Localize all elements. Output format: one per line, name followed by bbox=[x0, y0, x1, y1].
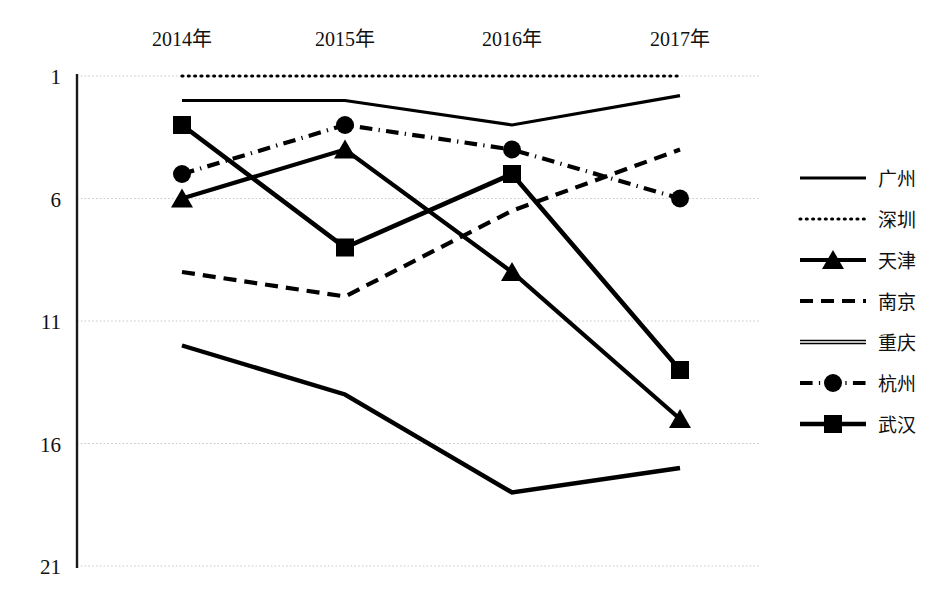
series-line bbox=[182, 96, 680, 125]
series-南京 bbox=[182, 150, 680, 297]
x-tick-label: 2015年 bbox=[315, 28, 375, 50]
legend-label: 重庆 bbox=[878, 333, 916, 354]
legend-item-南京[interactable]: 南京 bbox=[800, 292, 916, 313]
data-point-triangle-marker bbox=[334, 140, 356, 159]
y-tick-label: 6 bbox=[51, 188, 62, 212]
legend-swatch-circle-marker bbox=[824, 374, 842, 392]
series-line bbox=[182, 125, 680, 199]
data-point-square-marker bbox=[503, 165, 521, 183]
ranking-line-chart: 16111621 2014年2015年2016年2017年 广州深圳天津南京重庆… bbox=[0, 0, 935, 616]
legend-label: 南京 bbox=[878, 292, 916, 313]
x-tick-label: 2014年 bbox=[152, 28, 212, 50]
legend-item-深圳[interactable]: 深圳 bbox=[800, 210, 916, 231]
gridlines-group bbox=[77, 76, 760, 566]
legend-item-杭州[interactable]: 杭州 bbox=[800, 374, 916, 395]
data-point-circle-marker bbox=[671, 190, 689, 208]
data-point-circle-marker bbox=[173, 165, 191, 183]
y-tick-label: 1 bbox=[51, 65, 62, 89]
legend-group: 广州深圳天津南京重庆杭州武汉 bbox=[800, 169, 916, 436]
data-point-square-marker bbox=[173, 116, 191, 134]
x-axis-tick-labels: 2014年2015年2016年2017年 bbox=[152, 28, 710, 50]
legend-label: 天津 bbox=[878, 251, 916, 272]
series-武汉 bbox=[173, 116, 689, 379]
x-tick-label: 2017年 bbox=[650, 28, 710, 50]
legend-item-武汉[interactable]: 武汉 bbox=[800, 415, 916, 436]
legend-item-广州[interactable]: 广州 bbox=[800, 169, 916, 190]
legend-item-天津[interactable]: 天津 bbox=[800, 250, 916, 272]
data-point-circle-marker bbox=[503, 141, 521, 159]
legend-item-重庆[interactable]: 重庆 bbox=[800, 333, 916, 354]
data-point-square-marker bbox=[336, 239, 354, 257]
y-tick-label: 16 bbox=[40, 433, 61, 457]
series-line bbox=[182, 125, 680, 370]
data-point-circle-marker bbox=[336, 116, 354, 134]
x-tick-label: 2016年 bbox=[482, 28, 542, 50]
series-重庆 bbox=[182, 346, 680, 493]
series-广州 bbox=[182, 96, 680, 125]
legend-swatch-square-marker bbox=[824, 415, 842, 433]
legend-label: 深圳 bbox=[878, 210, 916, 231]
y-tick-label: 11 bbox=[41, 310, 61, 334]
legend-label: 杭州 bbox=[878, 374, 916, 395]
data-point-square-marker bbox=[671, 361, 689, 379]
series-杭州 bbox=[173, 116, 689, 208]
series-line bbox=[182, 150, 680, 297]
y-tick-label: 21 bbox=[40, 555, 61, 579]
series-layer bbox=[171, 76, 691, 493]
legend-label: 武汉 bbox=[878, 415, 916, 436]
chart-canvas: 16111621 2014年2015年2016年2017年 广州深圳天津南京重庆… bbox=[0, 0, 935, 616]
y-axis-tick-labels: 16111621 bbox=[40, 65, 61, 579]
legend-label: 广州 bbox=[878, 169, 916, 190]
series-line-inner bbox=[182, 346, 680, 493]
